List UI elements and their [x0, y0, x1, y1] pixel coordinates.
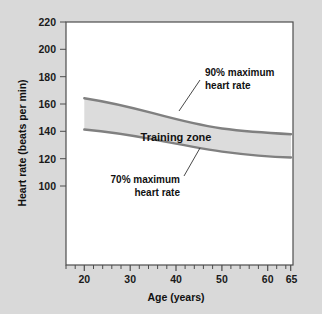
x-axis-title: Age (years)	[147, 291, 204, 303]
y-tick-label-180: 180	[38, 71, 56, 83]
y-tick-label-140: 140	[38, 125, 56, 137]
x-tick-label-60: 60	[262, 273, 274, 285]
y-tick-label-120: 120	[38, 153, 56, 165]
y-axis-title: Heart rate (beats per min)	[16, 79, 28, 206]
lower-annotation-line2: heart rate	[134, 187, 180, 198]
chart-figure: 220 200 180 160 140 120 100	[0, 0, 322, 314]
y-tick-label-100: 100	[38, 180, 56, 192]
x-tick-label-65: 65	[286, 273, 298, 285]
upper-annotation-line2: heart rate	[205, 80, 251, 91]
x-tick-label-50: 50	[216, 273, 228, 285]
training-zone-label: Training zone	[141, 131, 212, 143]
y-tick-label-200: 200	[38, 43, 56, 55]
upper-annotation-line1: 90% maximum	[205, 67, 275, 78]
y-tick-label-160: 160	[38, 98, 56, 110]
heart-rate-training-zone-chart: 220 200 180 160 140 120 100	[0, 0, 322, 314]
x-tick-label-20: 20	[78, 273, 90, 285]
lower-annotation-line1: 70% maximum	[111, 174, 181, 185]
x-tick-label-40: 40	[170, 273, 182, 285]
y-tick-label-220: 220	[38, 16, 56, 28]
x-tick-label-30: 30	[124, 273, 136, 285]
